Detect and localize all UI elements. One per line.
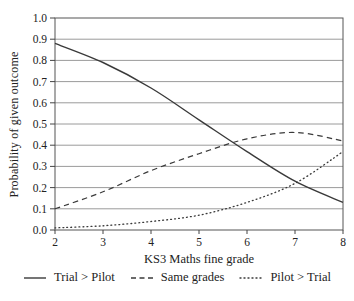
legend-label: Pilot > Trial [270,270,331,285]
legend-label: Trial > Pilot [54,270,115,285]
y-tick-label: 0.5 [33,118,48,130]
x-tick-label: 6 [244,236,250,248]
x-tick-label: 5 [196,236,202,248]
y-tick-label: 0.2 [33,182,48,194]
legend: Trial > Pilot Same grades Pilot > Trial [0,270,354,285]
y-axis-ticks: 0.00.10.20.30.40.50.60.70.80.91.0 [33,12,55,236]
legend-item-pilot-gt-trial: Pilot > Trial [239,270,331,285]
legend-swatch-solid-line-icon [23,273,47,283]
legend-item-trial-gt-pilot: Trial > Pilot [23,270,115,285]
y-tick-label: 0.7 [33,76,48,88]
chart-figure: Probability of given outcome 0.00.10.20.… [0,0,354,301]
x-tick-label: 4 [148,236,154,248]
series-line-same-grades [55,132,343,208]
legend-swatch-dotted-line-icon [239,273,263,283]
x-tick-label: 7 [292,236,298,248]
x-tick-label: 2 [52,236,58,248]
y-tick-label: 0.9 [33,33,48,45]
series-line-trial-pilot [55,43,343,202]
y-tick-label: 0.6 [33,97,48,109]
x-axis-ticks: 2345678 [52,230,346,248]
y-tick-label: 1.0 [33,12,48,24]
x-tick-label: 3 [100,236,106,248]
series-line-pilot-trial [55,152,343,228]
legend-label: Same grades [161,270,225,285]
y-tick-label: 0.1 [33,203,48,215]
y-tick-label: 0.3 [33,160,48,172]
y-tick-label: 0.4 [33,139,48,151]
y-tick-label: 0.8 [33,54,48,66]
x-axis-title: KS3 Maths fine grade [55,252,343,267]
y-tick-label: 0.0 [33,224,48,236]
legend-item-same-grades: Same grades [130,270,225,285]
x-tick-label: 8 [340,236,346,248]
legend-swatch-dashed-line-icon [130,273,154,283]
